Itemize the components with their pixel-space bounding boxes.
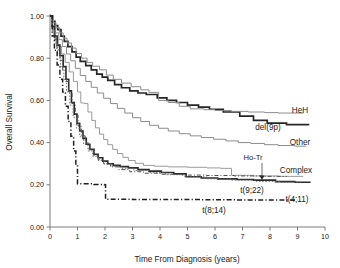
x-tick-label: 0 [48, 232, 52, 241]
annotation-label-ho-tr: Ho-Tr [243, 153, 263, 162]
x-axis-title: Time From Diagnosis (years) [134, 255, 240, 264]
y-tick-label: 0.40 [30, 138, 44, 147]
series-label-del9p: del(9p) [255, 123, 281, 132]
series-label-HeH: HeH [292, 106, 308, 115]
survival-chart: 0.000.200.400.600.801.00012345678910 Ho-… [0, 0, 340, 268]
x-tick-label: 3 [131, 232, 135, 241]
series-label-t814: t(8;14) [202, 206, 226, 215]
series-label-Other: Other [290, 138, 311, 147]
x-tick-label: 4 [158, 232, 162, 241]
x-tick-label: 1 [76, 232, 80, 241]
y-tick-label: 0.20 [30, 180, 44, 189]
survival-curves [50, 16, 310, 200]
series-label-Complex: Complex [280, 166, 312, 175]
curve-HeH [50, 16, 309, 125]
axes-group: 0.000.200.400.600.801.00012345678910 [30, 12, 329, 241]
y-tick-label: 0.60 [30, 96, 44, 105]
x-tick-label: 7 [241, 232, 245, 241]
series-label-t411: t(4;11) [285, 195, 308, 204]
x-tick-label: 6 [213, 232, 217, 241]
kaplan-meier-plot: 0.000.200.400.600.801.00012345678910 Ho-… [0, 0, 340, 268]
y-tick-label: 0.80 [30, 54, 44, 63]
x-tick-label: 10 [321, 232, 329, 241]
curve-Complex [50, 16, 303, 177]
y-tick-label: 0.00 [30, 223, 44, 232]
curve-t922 [50, 16, 310, 183]
x-tick-label: 2 [103, 232, 107, 241]
x-tick-label: 8 [268, 232, 272, 241]
x-tick-label: 9 [296, 232, 300, 241]
y-tick-label: 1.00 [30, 12, 44, 21]
y-axis-title: Overall Survival [5, 93, 14, 151]
annotation-arrowhead-icon [259, 175, 264, 180]
series-label-t922: t(9;22) [240, 186, 264, 195]
curve-t411 [50, 16, 300, 183]
x-tick-label: 5 [186, 232, 190, 241]
